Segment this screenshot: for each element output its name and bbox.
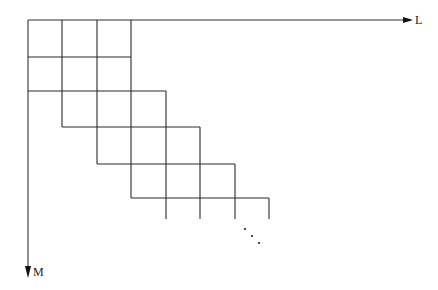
l-axis-label: L [415, 13, 422, 27]
band-grid-lines [28, 20, 269, 219]
continuation-ellipsis [244, 228, 260, 244]
staircase-diagram: L M [0, 0, 438, 290]
ellipsis-dot [244, 228, 246, 230]
ellipsis-dot [258, 242, 260, 244]
m-axis-arrow-icon [25, 266, 31, 278]
ellipsis-dot [251, 235, 253, 237]
m-axis-label: M [33, 265, 44, 279]
l-axis-arrow-icon [403, 17, 413, 23]
